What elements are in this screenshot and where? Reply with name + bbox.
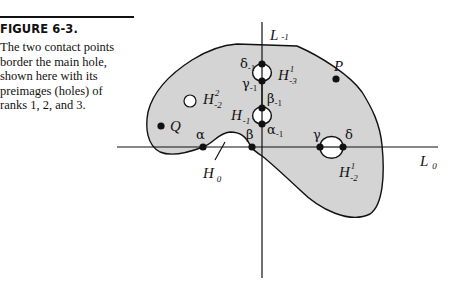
label-alpha: α — [196, 127, 205, 142]
point-Q — [157, 122, 164, 129]
label-gamma: γ — [313, 127, 321, 142]
label-beta: β — [246, 127, 254, 142]
point-alpha-m1 — [258, 120, 265, 127]
label-L0: L0 — [419, 153, 437, 171]
label-P: P — [333, 58, 343, 74]
point-alpha — [199, 143, 206, 150]
point-gamma — [316, 143, 323, 150]
H0-pointer — [215, 142, 225, 160]
point-delta — [339, 143, 346, 150]
hole-H2-2 — [184, 95, 196, 107]
label-H0: H0 — [202, 165, 222, 184]
point-beta — [248, 143, 255, 150]
point-gamma-m1 — [258, 77, 265, 84]
label-L-1: L-1 — [269, 27, 289, 43]
diagram: L-1 L0 P Q α β γ δ δ-1 γ-1 β-1 α-1 H2-2 … — [0, 0, 461, 289]
label-Q: Q — [170, 118, 181, 134]
point-beta-m1 — [258, 104, 265, 111]
label-delta: δ — [345, 127, 353, 142]
point-delta-m1 — [258, 60, 265, 67]
point-P — [332, 75, 339, 82]
